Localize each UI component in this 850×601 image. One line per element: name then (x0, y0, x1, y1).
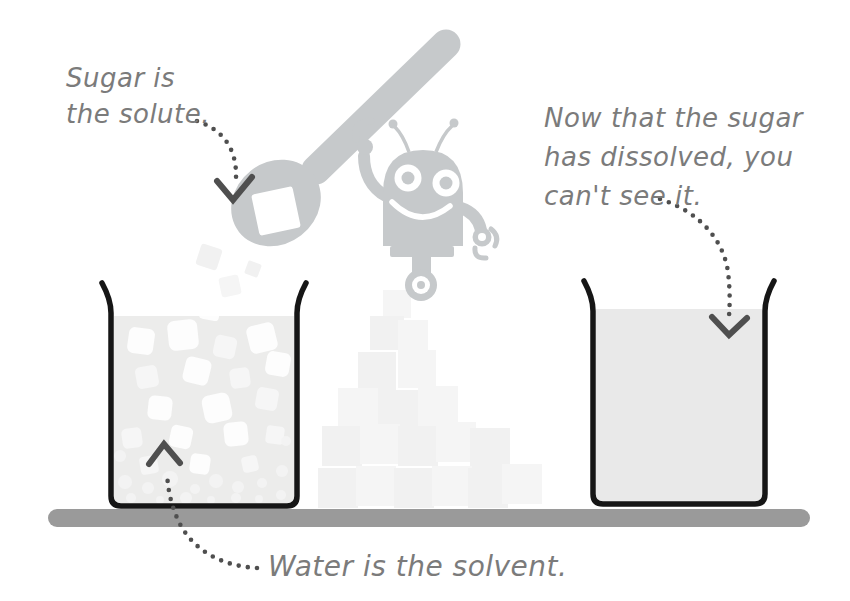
robot-mascot-icon (356, 119, 497, 302)
right-beaker-water (596, 309, 762, 502)
sugar-cube-icon (251, 186, 301, 236)
caption-water-solvent: Water is the solvent. (268, 550, 567, 584)
illustration-canvas: Sugar is the solute. Now that the sugar … (0, 0, 850, 601)
table-surface (48, 509, 810, 527)
caption-sugar-dissolved: Now that the sugar has dissolved, you ca… (544, 99, 803, 216)
dotted-arrow-solute (197, 121, 252, 200)
caption-sugar-solute: Sugar is the solute. (66, 60, 210, 132)
falling-sugar-cubes (195, 243, 262, 298)
sugar-pile-faint (318, 290, 542, 508)
